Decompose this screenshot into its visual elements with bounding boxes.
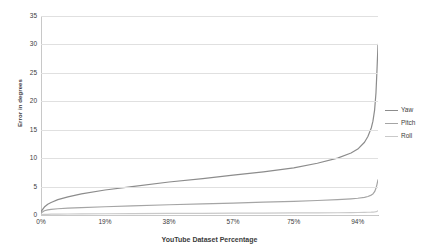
legend-swatch-pitch	[385, 123, 398, 125]
x-tick-label: 75%	[274, 219, 314, 226]
gridline	[41, 101, 378, 102]
gridline	[41, 44, 378, 45]
x-tick-label: 19%	[85, 219, 125, 226]
chart-legend: YawPitchRoll	[385, 104, 431, 143]
legend-entry-roll[interactable]: Roll	[385, 130, 431, 143]
gridline	[41, 73, 378, 74]
gridline	[41, 215, 378, 216]
y-tick-label: 20	[11, 98, 37, 105]
legend-label: Roll	[401, 133, 412, 140]
gridline	[41, 130, 378, 131]
chart-container: Error in degrees 05101520253035 0%19%38%…	[0, 0, 432, 251]
gridline	[41, 16, 378, 17]
legend-label: Yaw	[401, 107, 413, 114]
legend-entry-yaw[interactable]: Yaw	[385, 104, 431, 117]
y-tick-label: 25	[11, 70, 37, 77]
y-tick-label: 30	[11, 41, 37, 48]
x-tick-label: 0%	[21, 219, 61, 226]
y-tick-label: 10	[11, 155, 37, 162]
y-tick-label: 35	[11, 13, 37, 20]
y-tick-label: 0	[11, 212, 37, 219]
legend-entry-pitch[interactable]: Pitch	[385, 117, 431, 130]
y-tick-label: 5	[11, 184, 37, 191]
legend-swatch-roll	[385, 136, 398, 138]
x-axis-ticks: 0%19%38%57%75%94%	[41, 219, 378, 231]
legend-label: Pitch	[401, 120, 415, 127]
gridline	[41, 158, 378, 159]
y-axis-ticks: 05101520253035	[6, 16, 37, 215]
plot-area	[41, 16, 378, 215]
y-tick-label: 15	[11, 127, 37, 134]
series-lines	[41, 16, 378, 215]
series-line-pitch	[41, 180, 378, 213]
legend-swatch-yaw	[385, 110, 398, 112]
x-tick-label: 38%	[149, 219, 189, 226]
x-axis-title: YouTube Dataset Percentage	[41, 236, 378, 243]
x-tick-label: 57%	[213, 219, 253, 226]
gridline	[41, 187, 378, 188]
x-tick-label: 94%	[338, 219, 378, 226]
